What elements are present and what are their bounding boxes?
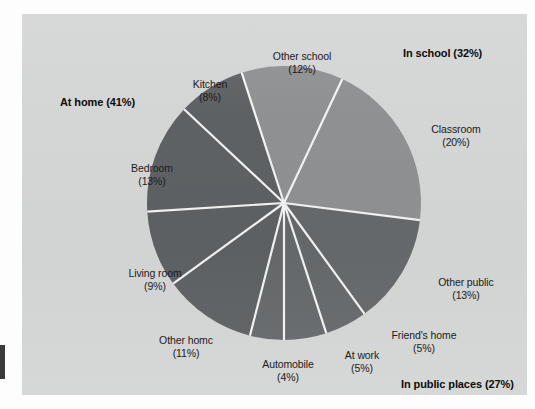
slice-label-name: Other public — [438, 276, 493, 288]
slice-label-percent: (5%) — [370, 342, 478, 355]
slice-label-percent: (11%) — [136, 347, 236, 360]
slice-label-percent: (13%) — [414, 289, 518, 302]
slice-label-name: Automobile — [262, 358, 314, 370]
slice-label-percent: (8%) — [172, 91, 248, 104]
slice-label-other-school: Other school (12%) — [247, 50, 357, 75]
slice-label-percent: (9%) — [105, 280, 205, 293]
slice-label-friends-home: Friend's home (5%) — [370, 329, 478, 354]
slice-label-automobile: Automobile (4%) — [238, 358, 338, 383]
scan-edge-artifact — [0, 345, 5, 379]
group-label-in-public-places: In public places (27%) — [401, 378, 514, 390]
slice-label-percent: (13%) — [110, 175, 194, 188]
group-label-at-home: At home (41%) — [60, 96, 135, 108]
slice-label-kitchen: Kitchen (8%) — [172, 78, 248, 103]
slice-label-other-home: Other homc (11%) — [136, 334, 236, 359]
slice-label-classroom: Classroom (20%) — [406, 123, 506, 148]
scan-page: Other school (12%) Kitchen (8%) Classroo… — [0, 0, 535, 409]
slice-label-name: Living room — [128, 267, 181, 279]
slice-label-name: Other school — [273, 50, 331, 62]
slice-label-percent: (5%) — [325, 362, 399, 375]
slice-label-bedroom: Bedroom (13%) — [110, 162, 194, 187]
slice-label-name: Friend's home — [392, 329, 457, 341]
slice-label-living-room: Living room (9%) — [105, 267, 205, 292]
slice-label-percent: (12%) — [247, 63, 357, 76]
group-label-in-school: In school (32%) — [403, 47, 482, 59]
slice-label-name: Classroom — [431, 123, 480, 135]
slice-label-name: Bedroom — [131, 162, 173, 174]
slice-label-other-public: Other public (13%) — [414, 276, 518, 301]
slice-label-name: Kitchen — [193, 78, 227, 90]
slice-label-name: Other homc — [159, 334, 213, 346]
slice-label-percent: (4%) — [238, 371, 338, 384]
slice-label-percent: (20%) — [406, 136, 506, 149]
pie-chart-panel: Other school (12%) Kitchen (8%) Classroo… — [22, 14, 527, 395]
